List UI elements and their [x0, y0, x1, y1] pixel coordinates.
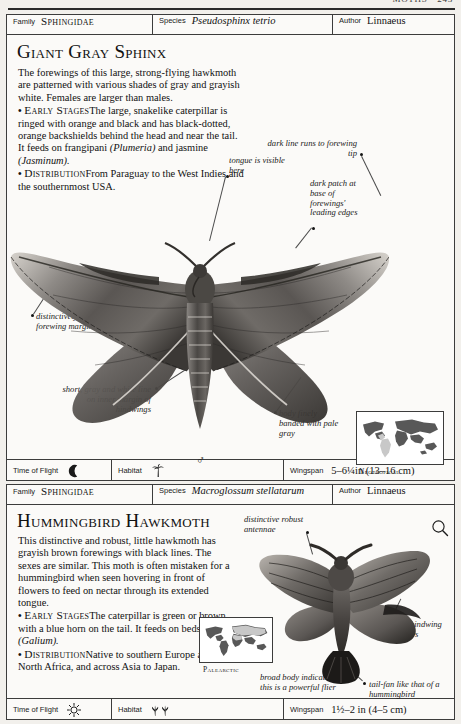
annotation-robust-antennae: distinctive robust antennae [244, 515, 324, 535]
intro-paragraph: This distinctive and robust, little hawk… [18, 535, 232, 609]
antenna-right [346, 545, 371, 559]
family-label: Family [13, 487, 35, 496]
foodplant-jasminum: (Jasminum). [18, 155, 70, 166]
species-label: Species [159, 16, 186, 25]
author-cell: Author Linnaeus [333, 15, 454, 34]
header-rule [8, 8, 455, 10]
antenna-left [165, 243, 196, 266]
description-text: The forewings of this large, strong-flyi… [18, 67, 246, 193]
map-region-caption: Neotropical [359, 467, 400, 476]
common-name-heading: Giant Gray Sphinx [17, 41, 166, 63]
common-name-heading: Hummingbird Hawkmoth [17, 510, 210, 532]
early-stages-heading: Early Stages [24, 609, 89, 621]
species-value: Pseudosphinx tetrio [192, 15, 276, 26]
family-value: Sphingidae [41, 15, 94, 27]
family-cell: Family Sphingidae [7, 15, 153, 34]
species-label: Species [159, 486, 186, 495]
distribution-heading: Distribution [24, 167, 85, 179]
author-value: Linnaeus [367, 485, 406, 496]
identification-strip: Family Sphingidae Species Macroglossum s… [7, 485, 454, 505]
sun-icon [66, 702, 82, 716]
species-value: Macroglossum stellatarum [192, 485, 305, 496]
family-value: Sphingidae [41, 485, 94, 497]
shrubs-icon [150, 702, 174, 716]
habitat-label: Habitat [118, 705, 142, 714]
distribution-map-palearctic [199, 617, 273, 663]
foodplant-plumeria: (Plumeria) [110, 142, 156, 153]
forewing-right [341, 551, 430, 613]
data-strip: Time of Flight Habitat [7, 698, 454, 719]
intro-paragraph: The forewings of this large, strong-flyi… [18, 67, 246, 104]
species-entry-giant-gray-sphinx: Family Sphingidae Species Pseudosphinx t… [6, 14, 455, 481]
author-label: Author [339, 16, 361, 25]
palm-tree-icon [150, 463, 166, 477]
author-cell: Author Linnaeus [333, 485, 454, 504]
time-of-flight-label: Time of Flight [13, 705, 58, 714]
moth-illustration-giant-gray-sphinx [9, 185, 389, 470]
early-stages-paragraph: • Early StagesThe large, snakelike cater… [18, 104, 246, 167]
foodplant-galium: (Galium). [18, 635, 59, 646]
page-header: MOTHS • 243 [0, 0, 461, 12]
time-of-flight-cell: Time of Flight [7, 699, 112, 719]
magnification-icon [431, 519, 449, 537]
map-region-caption: Palearctic [203, 665, 239, 674]
entry-body: Hummingbird Hawkmoth This distinctive an… [7, 505, 454, 698]
distribution-map-neotropical [356, 411, 444, 465]
species-entry-hummingbird-hawkmoth: Family Sphingidae Species Macroglossum s… [6, 484, 455, 720]
author-value: Linnaeus [367, 15, 406, 26]
family-label: Family [13, 17, 35, 26]
wingspan-value: 1½–2 in (4–5 cm) [331, 704, 406, 715]
early-stages-connector: and jasmine [155, 142, 208, 153]
habitat-cell: Habitat [112, 699, 284, 719]
distribution-heading: Distribution [24, 648, 85, 660]
bullet-marker: • [18, 105, 22, 116]
moon-icon [66, 463, 82, 477]
identification-strip: Family Sphingidae Species Pseudosphinx t… [7, 15, 454, 35]
author-label: Author [339, 486, 361, 495]
species-cell: Species Pseudosphinx tetrio [153, 15, 333, 34]
wingspan-label: Wingspan [290, 705, 323, 714]
wingspan-cell: Wingspan 1½–2 in (4–5 cm) [284, 699, 454, 719]
annotation-tongue-visible: tongue is visible here [229, 156, 289, 176]
world-map-svg [360, 415, 440, 461]
antenna-right [204, 243, 235, 266]
bullet-marker: • [18, 168, 22, 179]
early-stages-heading: Early Stages [24, 104, 89, 116]
world-map-svg [203, 621, 269, 659]
moth-illustration-hummingbird-hawkmoth [235, 533, 445, 691]
bullet-marker: • [18, 610, 22, 621]
gender-symbol-male: ♂ [196, 453, 205, 468]
family-cell: Family Sphingidae [7, 485, 153, 504]
bullet-marker: • [18, 649, 22, 660]
page-folio: MOTHS • 243 [392, 0, 453, 4]
antenna-left [311, 545, 336, 559]
abdomen [187, 303, 214, 429]
annotation-dot [226, 175, 229, 178]
entry-body: Giant Gray Sphinx The forewings of this … [7, 35, 454, 459]
species-cell: Species Macroglossum stellatarum [153, 485, 333, 504]
